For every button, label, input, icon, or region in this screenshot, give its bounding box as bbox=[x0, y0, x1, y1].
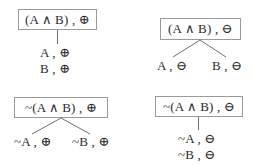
rule-leaf-node: ~A , ⊖ bbox=[178, 131, 216, 147]
rule-leaf-node: ~B , ⊖ bbox=[178, 147, 216, 163]
diagram-canvas: (A ∧ B) , ⊕ A , ⊕ B , ⊕ (A ∧ B) , ⊖ A , … bbox=[0, 0, 254, 166]
rule-edges-linear bbox=[0, 0, 254, 166]
